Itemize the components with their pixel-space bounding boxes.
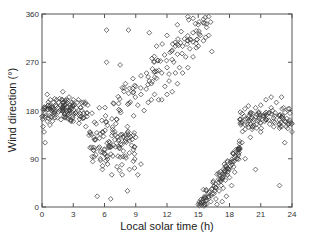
data-point: [175, 81, 180, 86]
data-point: [104, 28, 109, 33]
data-point: [170, 89, 175, 94]
data-point: [135, 103, 140, 108]
data-point: [188, 46, 193, 51]
data-point: [180, 71, 185, 76]
x-tick-label: 12: [163, 210, 172, 219]
data-point: [133, 95, 138, 100]
data-point: [165, 33, 170, 38]
data-point: [131, 76, 136, 81]
data-point: [150, 67, 155, 72]
data-point: [156, 97, 161, 102]
data-point: [214, 197, 219, 202]
data-point: [92, 120, 97, 125]
data-point: [139, 73, 144, 78]
data-point: [139, 92, 144, 97]
data-point: [229, 183, 234, 188]
data-point: [135, 172, 140, 177]
data-point: [103, 105, 108, 110]
data-point: [152, 92, 157, 97]
data-point: [191, 30, 196, 35]
y-tick-label: 0: [35, 203, 40, 212]
data-point: [206, 33, 211, 38]
data-point: [274, 100, 279, 105]
data-point: [208, 199, 213, 204]
data-point: [126, 28, 131, 33]
data-point: [162, 53, 167, 58]
data-point: [173, 71, 178, 76]
data-point: [165, 92, 170, 97]
data-point: [264, 97, 269, 102]
data-point: [95, 194, 100, 199]
data-point: [97, 105, 102, 110]
data-point: [232, 170, 237, 175]
data-point: [209, 49, 214, 54]
data-point: [45, 92, 50, 97]
data-point: [267, 122, 272, 127]
data-point: [60, 89, 65, 94]
data-point: [220, 199, 225, 204]
data-point: [118, 63, 123, 68]
y-axis-title: Wind direction (°): [6, 68, 18, 152]
data-point: [110, 116, 115, 121]
data-point: [221, 186, 226, 191]
data-point: [163, 84, 168, 89]
x-tick-label: 9: [134, 210, 139, 219]
data-point: [90, 159, 95, 164]
data-point: [147, 30, 152, 35]
data-point: [243, 156, 248, 161]
data-point: [167, 79, 172, 84]
x-tick-label: 18: [225, 210, 234, 219]
data-point: [116, 101, 121, 106]
data-point: [103, 113, 108, 118]
data-point: [120, 172, 125, 177]
data-point: [139, 162, 144, 167]
data-point: [227, 175, 232, 180]
data-point: [215, 202, 220, 207]
x-tick-label: 24: [288, 210, 297, 219]
data-point: [175, 52, 180, 57]
data-point: [113, 121, 118, 126]
data-point: [154, 44, 159, 49]
x-axis-title: Local solar time (h): [120, 220, 214, 232]
data-point: [132, 151, 137, 156]
data-point: [138, 86, 143, 91]
y-tick-label: 180: [26, 107, 40, 116]
data-point: [269, 95, 274, 100]
data-point: [159, 97, 164, 102]
data-point: [127, 86, 132, 91]
data-point: [48, 123, 53, 128]
data-point: [183, 54, 188, 59]
data-point: [98, 158, 103, 163]
x-tick-label: 3: [71, 210, 76, 219]
y-tick-label: 360: [26, 10, 40, 19]
data-point: [112, 101, 117, 106]
data-point: [111, 101, 116, 106]
data-point: [240, 129, 245, 134]
data-point: [191, 54, 196, 59]
data-point: [185, 65, 190, 70]
data-point: [242, 106, 247, 111]
data-point: [116, 154, 121, 159]
y-tick-label: 90: [30, 155, 39, 164]
data-point: [253, 105, 258, 110]
y-tick-label: 270: [26, 58, 40, 67]
x-tick-label: 6: [102, 210, 107, 219]
data-point: [123, 81, 128, 86]
data-point: [248, 135, 253, 140]
data-point: [127, 151, 132, 156]
data-point: [271, 124, 276, 129]
data-point: [43, 140, 48, 145]
data-point: [90, 111, 95, 116]
x-tick-label: 15: [194, 210, 203, 219]
data-points: [40, 14, 295, 208]
data-point: [41, 124, 46, 129]
data-point: [164, 58, 169, 63]
data-point: [132, 166, 137, 171]
data-point: [179, 29, 184, 34]
data-point: [127, 167, 132, 172]
data-point: [246, 104, 251, 109]
data-point: [177, 65, 182, 70]
data-point: [160, 42, 165, 47]
data-point: [142, 108, 147, 113]
scatter-chart: 03691215182124 090180270360 Local solar …: [0, 0, 310, 241]
